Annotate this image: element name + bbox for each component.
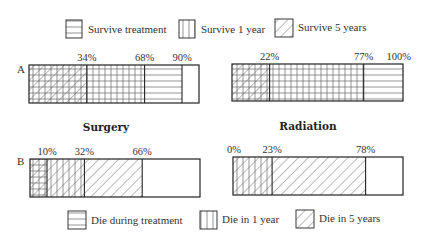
row-label-b: B — [17, 155, 24, 167]
legend-label: Die in 5 years — [319, 212, 380, 224]
cutoff-label: 100% — [387, 51, 412, 62]
bar-segment — [84, 159, 142, 197]
legend-item-survive-5-years: Survive 5 years — [275, 19, 366, 37]
legend-item-die-in-1-year: Die in 1 year — [200, 211, 279, 229]
bar-segment — [47, 159, 84, 197]
segment-background — [142, 159, 200, 197]
legend-label: Survive 5 years — [298, 21, 366, 33]
bar-a-radiation: 22%77%100% — [232, 51, 411, 101]
bar-segment — [87, 65, 145, 103]
legend-item-die-during-treatment: Die during treatment — [68, 211, 183, 229]
cutoff-label: 78% — [356, 144, 376, 155]
cutoff-label: 0% — [227, 144, 241, 155]
legend-label: Die during treatment — [91, 214, 183, 226]
bar-segment — [232, 64, 270, 101]
legend-top: Survive treatment Survive 1 year Survive… — [66, 19, 366, 38]
segment-pattern-diagonal — [30, 159, 47, 197]
legend-item-survive-1-year: Survive 1 year — [179, 20, 265, 38]
segment-pattern-diagonal — [29, 65, 87, 103]
segment-pattern-diagonal — [84, 159, 142, 197]
bar-segment — [145, 65, 182, 103]
cutoff-label: 34% — [77, 52, 97, 63]
segment-pattern-diagonal — [232, 64, 270, 101]
bar-segment — [142, 159, 200, 197]
legend-label: Survive treatment — [88, 23, 167, 35]
segment-pattern-diagonal — [47, 159, 84, 197]
segment-pattern-horizontal — [145, 65, 182, 103]
bar-segment — [364, 64, 403, 101]
legend-bottom: Die during treatment Die in 1 year Die i… — [68, 210, 380, 229]
bar-a-surgery: 34%68%90% — [29, 52, 199, 103]
legend-label: Survive 1 year — [201, 23, 265, 35]
legend-item-survive-treatment: Survive treatment — [66, 20, 167, 38]
segment-pattern-diagonal — [233, 157, 272, 195]
bar-segment — [182, 65, 199, 103]
segment-background — [182, 65, 199, 103]
segment-background — [366, 157, 403, 195]
legend-item-die-in-5-years: Die in 5 years — [296, 210, 380, 228]
bar-segment — [270, 64, 364, 101]
bar-segment — [233, 157, 272, 195]
cutoff-label: 68% — [135, 52, 155, 63]
bar-segment — [30, 159, 47, 197]
segment-pattern-horizontal — [364, 64, 403, 101]
legend-swatch-diagonal — [296, 210, 314, 228]
bar-b-radiation: 0%23%78% — [227, 144, 403, 195]
column-title-surgery: Surgery — [83, 121, 130, 133]
cutoff-label: 90% — [172, 52, 192, 63]
legend-label: Die in 1 year — [222, 213, 279, 225]
bar-segment — [29, 65, 87, 103]
legend-swatch-diagonal — [275, 19, 293, 37]
segment-pattern-diagonal — [272, 157, 366, 195]
column-title-radiation: Radiation — [279, 120, 337, 132]
cutoff-label: 66% — [133, 146, 153, 157]
segment-pattern-vertical — [87, 65, 145, 103]
bar-b-surgery: 10%32%66% — [30, 146, 200, 197]
legend-swatch-horizontal — [66, 20, 82, 38]
survival-diagram: Survive treatment Survive 1 year Survive… — [0, 0, 426, 246]
segment-pattern-vertical — [270, 64, 364, 101]
cutoff-label: 77% — [354, 51, 374, 62]
legend-swatch-vertical — [179, 20, 195, 38]
bar-segment — [366, 157, 403, 195]
row-label-a: A — [17, 63, 25, 75]
cutoff-label: 10% — [37, 146, 57, 157]
cutoff-label: 22% — [260, 51, 280, 62]
legend-swatch-vertical — [200, 211, 217, 229]
cutoff-label: 23% — [262, 144, 282, 155]
cutoff-label: 32% — [75, 146, 95, 157]
legend-swatch-horizontal — [68, 211, 86, 229]
bar-segment — [272, 157, 366, 195]
